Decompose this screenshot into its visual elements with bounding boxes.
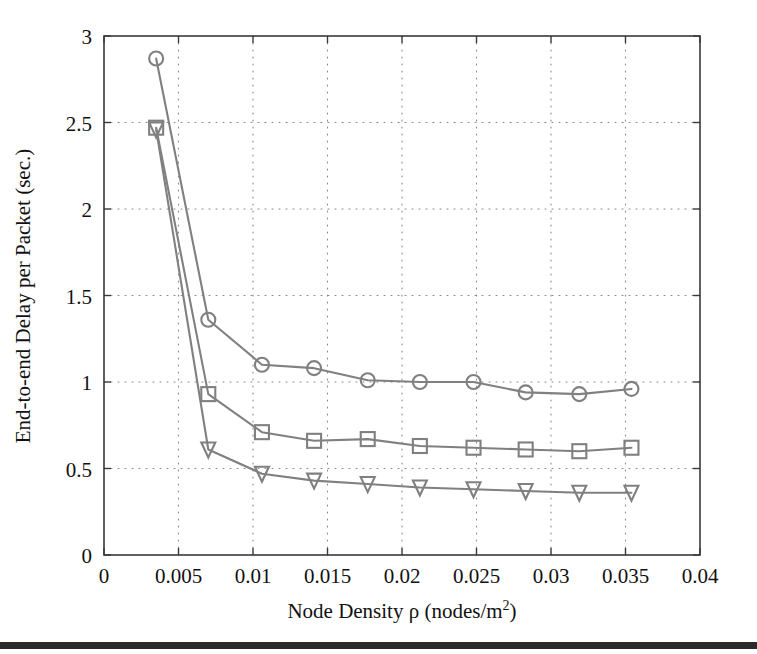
grid-layer (104, 36, 700, 555)
x-tick-label: 0.035 (602, 564, 649, 588)
series-line (156, 58, 631, 394)
x-tick-labels: 00.0050.010.0150.020.0250.030.0350.04 (99, 564, 719, 588)
x-tick-label: 0.01 (235, 564, 272, 588)
y-tick-label: 0.5 (66, 458, 92, 482)
series-line (156, 129, 631, 492)
series-layer (149, 51, 638, 500)
line-chart: 00.0050.010.0150.020.0250.030.0350.04 00… (0, 0, 757, 654)
x-tick-label: 0.015 (304, 564, 351, 588)
y-tick-label: 2 (82, 198, 93, 222)
series-circle (149, 51, 638, 401)
y-tick-label: 2.5 (66, 112, 92, 136)
y-tick-label: 3 (82, 25, 93, 49)
y-tick-label: 1.5 (66, 285, 92, 309)
x-tick-label: 0.005 (155, 564, 202, 588)
x-tick-label: 0.03 (533, 564, 570, 588)
x-tick-label: 0.025 (453, 564, 500, 588)
x-tick-label: 0.02 (384, 564, 421, 588)
x-tick-label: 0.04 (682, 564, 719, 588)
series-line (156, 128, 631, 452)
series-triangle-down (149, 122, 638, 500)
x-tick-label: 0 (99, 564, 110, 588)
y-tick-label: 1 (82, 371, 93, 395)
y-tick-labels: 00.511.522.53 (66, 25, 92, 568)
x-axis-title: Node Density ρ (nodes/m2) (287, 598, 516, 623)
figure-container: 00.0050.010.0150.020.0250.030.0350.04 00… (0, 0, 757, 654)
y-axis-title: End-to-end Delay per Packet (sec.) (11, 149, 35, 443)
y-tick-label: 0 (82, 544, 93, 568)
series-square (149, 121, 638, 459)
bottom-rule (0, 642, 757, 649)
